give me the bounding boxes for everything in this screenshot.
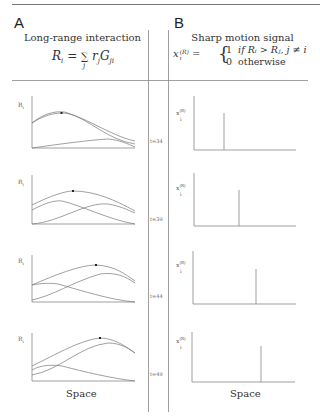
panel-b-plots xyxy=(0,0,320,420)
y-label-x: x(R)i xyxy=(176,260,186,274)
y-label-x: x(R)i xyxy=(176,108,186,122)
y-label-x: x(R)i xyxy=(176,183,186,197)
x-label-space-b: Space xyxy=(230,388,261,399)
y-label-x: x(R)i xyxy=(176,336,186,350)
x-label-space-a: Space xyxy=(66,388,97,399)
